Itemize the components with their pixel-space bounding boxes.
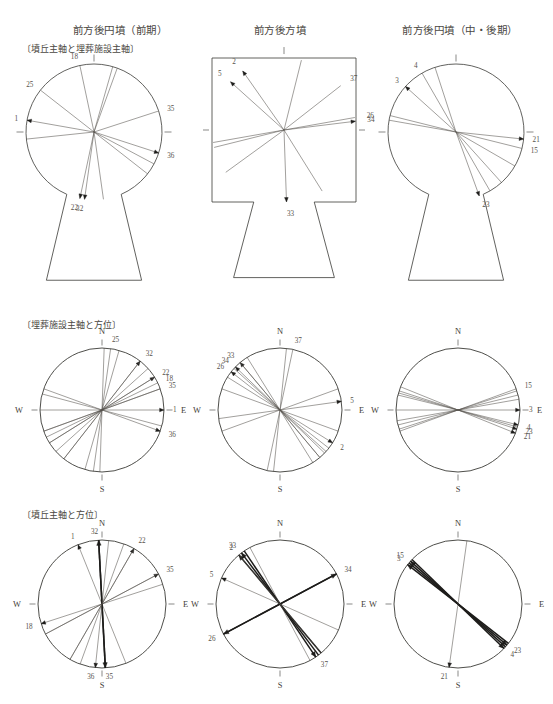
compass-label-n: N	[277, 519, 283, 528]
compass-label-w: W	[371, 406, 379, 415]
ray-label: 36	[169, 431, 177, 439]
compass-label-e: E	[181, 406, 186, 415]
compass-rose-r3c3: NESW15323421	[370, 520, 550, 698]
compass-label-w: W	[193, 406, 201, 415]
panel-r1c2: 2537263433	[196, 52, 376, 302]
compass-label-e: E	[183, 600, 188, 609]
panel-r2c3: NESW15342321	[370, 330, 550, 500]
compass-rose-r2c2: NESW2634333752	[192, 330, 372, 500]
compass-label-e: E	[537, 406, 542, 415]
figure-sheet: 前方後円墳（前期） 前方後方墳 前方後円墳（中・後期） 〔墳丘主軸と埋葬施設主軸…	[0, 0, 553, 704]
ray-label: 22	[139, 537, 147, 545]
compass-label-e: E	[361, 600, 366, 609]
column-title-c: 前方後円墳（中・後期）	[370, 22, 550, 37]
ray-label: 25	[112, 336, 120, 344]
mound-rose-r1c3: 43211523	[368, 52, 553, 302]
compass-rose-r3c1: NESW1322235183536	[14, 520, 194, 698]
column-title-a: 前方後円墳（前期）	[20, 22, 220, 37]
compass-label-w: W	[13, 600, 21, 609]
ray-label: 4	[511, 651, 515, 659]
ray-label: 35	[167, 105, 175, 113]
panel-r2c1: NESW2532221835136	[14, 330, 194, 500]
ray-label: 35	[106, 673, 114, 681]
compass-label-s: S	[100, 681, 105, 690]
ray-label: 1	[173, 406, 177, 414]
ray-label: 23	[482, 201, 490, 209]
compass-label-w: W	[191, 600, 199, 609]
ray-label: 1	[15, 115, 19, 123]
ray-label: 18	[25, 623, 33, 631]
panel-r3c1: NESW1322235183536	[14, 520, 194, 698]
mound-rose-r1c1: 1825135362232	[6, 52, 196, 302]
mound-outline	[388, 64, 524, 280]
ray-label: 33	[227, 352, 235, 360]
compass-label-n: N	[277, 327, 283, 336]
ray-label: 2	[232, 58, 236, 66]
panel-r2c2: NESW2634333752	[192, 330, 372, 500]
compass-label-n: N	[455, 327, 461, 336]
ray-label: 34	[344, 566, 352, 574]
compass-rose-r2c1: NESW2532221835136	[14, 330, 194, 500]
ray-label: 18	[71, 53, 79, 61]
ray-label: 5	[210, 571, 214, 579]
ray-label: 37	[321, 661, 329, 669]
ray-label: 4	[414, 62, 418, 70]
compass-label-s: S	[278, 485, 283, 494]
ray-label: 5	[218, 70, 222, 78]
ray-label: 2	[340, 444, 344, 452]
ray-label: 23	[514, 647, 522, 655]
compass-label-n: N	[455, 519, 461, 528]
compass-label-n: N	[99, 327, 105, 336]
ray-label: 21	[533, 136, 541, 144]
compass-label-w: W	[369, 600, 377, 609]
ray-label: 3	[529, 406, 533, 414]
compass-label-s: S	[456, 681, 461, 690]
ray-label: 1	[71, 533, 75, 541]
ray-label: 2	[229, 544, 233, 552]
column-title-b: 前方後方墳	[200, 22, 360, 37]
mound-outline	[26, 64, 162, 280]
panel-r1c3: 43211523	[368, 52, 553, 302]
panel-r3c2: NESW3325263437	[192, 520, 372, 698]
ray-label: 26	[208, 635, 216, 643]
compass-rose-r3c2: NESW3325263437	[192, 520, 372, 698]
ray-label: 3	[395, 77, 399, 85]
mound-rose-r1c2: 2537263433	[196, 52, 376, 302]
compass-label-s: S	[456, 485, 461, 494]
compass-label-w: W	[15, 406, 23, 415]
panel-r3c3: NESW15323421	[370, 520, 550, 698]
ray-label: 37	[295, 337, 303, 345]
ray-label: 21	[441, 673, 449, 681]
ray-label: 3	[397, 555, 401, 563]
ray-label: 32	[91, 528, 99, 536]
compass-label-s: S	[278, 681, 283, 690]
ray-label: 15	[525, 382, 533, 390]
ray-label: 36	[167, 152, 175, 160]
ray-label: 25	[26, 81, 34, 89]
panel-r1c1: 1825135362232	[6, 52, 196, 302]
ray-label: 35	[166, 566, 174, 574]
compass-label-s: S	[100, 485, 105, 494]
compass-rose-r2c3: NESW15342321	[370, 330, 550, 500]
ray-label: 32	[146, 350, 154, 358]
ray-label: 32	[76, 205, 84, 213]
ray-label: 35	[169, 382, 177, 390]
compass-label-e: E	[359, 406, 364, 415]
ray-label: 21	[524, 433, 532, 441]
ray-label: 37	[350, 75, 358, 83]
compass-label-n: N	[99, 519, 105, 528]
ray-label: 36	[87, 673, 95, 681]
compass-label-e: E	[539, 600, 544, 609]
ray-label: 5	[350, 397, 354, 405]
ray-label: 33	[287, 210, 295, 218]
ray-label: 15	[531, 147, 539, 155]
